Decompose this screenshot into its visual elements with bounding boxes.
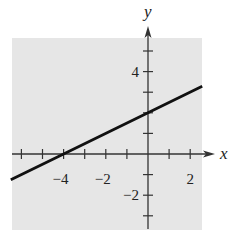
x-axis-label: x — [219, 144, 228, 163]
x-tick-label: −2 — [95, 171, 111, 187]
y-tick-label: 4 — [132, 64, 140, 80]
x-tick-label: −4 — [53, 171, 69, 187]
chart-canvas: −4−22 4−2 x y — [0, 0, 229, 242]
y-tick-label: −2 — [123, 187, 139, 203]
x-tick-label: 2 — [186, 171, 194, 187]
y-axis-label: y — [142, 2, 152, 21]
chart: −4−22 4−2 x y — [0, 0, 229, 242]
